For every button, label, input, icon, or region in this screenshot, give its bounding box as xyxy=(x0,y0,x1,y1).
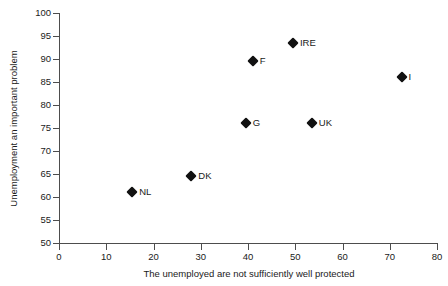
data-point-label: NL xyxy=(139,186,151,197)
x-tick-mark xyxy=(59,244,60,250)
x-tick-label: 10 xyxy=(91,252,121,262)
y-tick-mark xyxy=(53,59,59,60)
data-point-label: UK xyxy=(319,117,332,128)
y-tick-label: 70 xyxy=(27,146,51,156)
y-tick-label: 50 xyxy=(27,238,51,248)
diamond-marker-icon xyxy=(247,56,258,67)
diamond-marker-icon xyxy=(306,118,317,129)
y-tick-label: 75 xyxy=(27,123,51,133)
y-tick-mark xyxy=(53,220,59,221)
y-tick-label: 85 xyxy=(27,77,51,87)
x-tick-label: 80 xyxy=(422,252,448,262)
data-point-label: G xyxy=(253,117,260,128)
y-tick-mark xyxy=(53,151,59,152)
x-tick-label: 70 xyxy=(375,252,405,262)
y-tick-mark xyxy=(53,105,59,106)
x-tick-label: 40 xyxy=(233,252,263,262)
x-tick-label: 50 xyxy=(280,252,310,262)
diamond-marker-icon xyxy=(240,118,251,129)
data-point-label: F xyxy=(260,55,266,66)
x-tick-mark xyxy=(295,244,296,250)
scatter-chart: Unemployment an important problem 505560… xyxy=(0,0,448,286)
diamond-marker-icon xyxy=(186,171,197,182)
x-tick-mark xyxy=(201,244,202,250)
y-tick-mark xyxy=(53,36,59,37)
diamond-marker-icon xyxy=(127,187,138,198)
y-axis-label: Unemployment an important problem xyxy=(7,7,21,250)
diamond-marker-icon xyxy=(287,37,298,48)
y-tick-mark xyxy=(53,128,59,129)
data-point-label: IRE xyxy=(300,37,316,48)
x-tick-label: 20 xyxy=(139,252,169,262)
y-axis-line xyxy=(59,13,60,244)
x-tick-label: 0 xyxy=(44,252,74,262)
y-tick-mark xyxy=(53,197,59,198)
y-tick-mark xyxy=(53,13,59,14)
y-tick-label: 100 xyxy=(27,8,51,18)
x-tick-mark xyxy=(248,244,249,250)
x-tick-mark xyxy=(154,244,155,250)
diamond-marker-icon xyxy=(396,72,407,83)
x-tick-label: 60 xyxy=(328,252,358,262)
x-axis-label: The unemployed are not sufficiently well… xyxy=(60,268,438,279)
y-tick-label: 60 xyxy=(27,192,51,202)
y-tick-label: 95 xyxy=(27,31,51,41)
y-tick-label: 65 xyxy=(27,169,51,179)
x-tick-mark xyxy=(343,244,344,250)
y-tick-label: 55 xyxy=(27,215,51,225)
x-tick-mark xyxy=(437,244,438,250)
y-tick-label: 80 xyxy=(27,100,51,110)
data-point-label: DK xyxy=(198,170,211,181)
y-tick-mark xyxy=(53,82,59,83)
x-tick-mark xyxy=(106,244,107,250)
y-tick-mark xyxy=(53,174,59,175)
x-tick-mark xyxy=(390,244,391,250)
data-point-label: I xyxy=(409,71,412,82)
x-tick-label: 30 xyxy=(186,252,216,262)
y-tick-label: 90 xyxy=(27,54,51,64)
